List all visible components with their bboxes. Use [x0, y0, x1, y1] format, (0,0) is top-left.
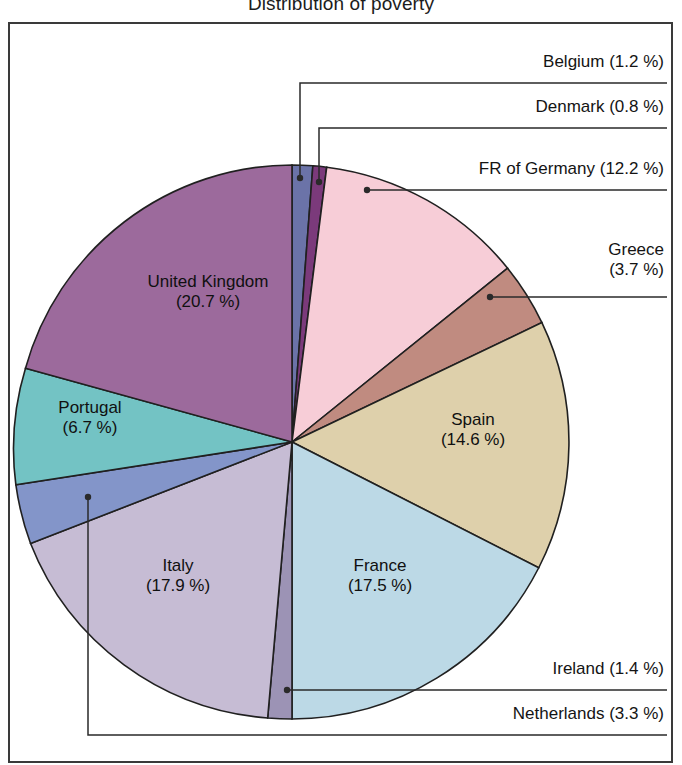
slice-label-united-kingdom-name: United Kingdom [148, 272, 269, 291]
slice-label-italy-name: Italy [162, 556, 193, 575]
leader-dot-ireland [284, 687, 290, 693]
leader-dot-greece [487, 294, 493, 300]
callout-label-greece: Greece (3.7 %) [608, 240, 664, 280]
slice-label-spain-name: Spain [451, 410, 494, 429]
callout-label-greece-name: Greece [608, 240, 664, 259]
leader-dot-netherlands [85, 494, 91, 500]
callout-label-fr-of-germany: FR of Germany (12.2 %) [479, 159, 664, 179]
leader-dot-denmark [316, 179, 322, 185]
leader-dot-belgium [297, 175, 303, 181]
slice-label-spain: Spain (14.6 %) [408, 410, 538, 449]
slice-label-united-kingdom-percent: (20.7 %) [108, 292, 308, 312]
slice-label-united-kingdom: United Kingdom (20.7 %) [108, 272, 308, 311]
slice-label-italy-percent: (17.9 %) [113, 576, 243, 596]
slice-label-france-name: France [354, 556, 407, 575]
slice-label-portugal: Portugal (6.7 %) [22, 398, 158, 437]
slice-label-france-percent: (17.5 %) [315, 576, 445, 596]
callout-label-belgium: Belgium (1.2 %) [543, 52, 664, 72]
callout-label-denmark: Denmark (0.8 %) [536, 97, 664, 117]
slice-label-france: France (17.5 %) [315, 556, 445, 595]
callout-label-netherlands: Netherlands (3.3 %) [513, 704, 664, 724]
slice-label-portugal-percent: (6.7 %) [22, 418, 158, 438]
pie-chart-figure: Distribution of poverty [0, 0, 682, 765]
slice-label-portugal-name: Portugal [58, 398, 121, 417]
slice-label-italy: Italy (17.9 %) [113, 556, 243, 595]
callout-label-ireland: Ireland (1.4 %) [553, 659, 665, 679]
callout-label-greece-percent: (3.7 %) [609, 260, 664, 279]
leader-dot-fr-of-germany [364, 187, 370, 193]
slice-label-spain-percent: (14.6 %) [408, 430, 538, 450]
